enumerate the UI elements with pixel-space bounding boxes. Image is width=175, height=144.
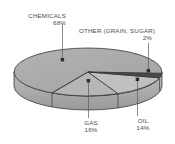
slice-label-other-name: OTHER (GRAIN, SUGAR) [79, 27, 152, 34]
slice-label-oil: OIL 14% [132, 117, 154, 132]
slice-label-chemicals: CHEMICALS 68% [19, 12, 66, 27]
pie-chart-figure: CHEMICALS 68% OTHER (GRAIN, SUGAR) 2% GA… [0, 0, 175, 144]
slice-label-other: OTHER (GRAIN, SUGAR) 2% [79, 27, 152, 42]
callout-dot-gas [87, 79, 90, 82]
pie-top-face [14, 48, 162, 96]
slice-label-oil-name: OIL [132, 117, 154, 124]
slice-label-chemicals-name: CHEMICALS [19, 12, 66, 19]
slice-label-chemicals-percent: 68% [19, 19, 66, 26]
callout-dot-oil [136, 78, 139, 81]
callout-dot-other [147, 69, 150, 72]
slice-label-gas: GAS 16% [78, 119, 104, 134]
slice-label-other-percent: 2% [79, 34, 152, 41]
slice-label-oil-percent: 14% [132, 124, 154, 131]
slice-label-gas-name: GAS [78, 119, 104, 126]
callout-dot-chemicals [61, 58, 64, 61]
slice-label-gas-percent: 16% [78, 126, 104, 133]
